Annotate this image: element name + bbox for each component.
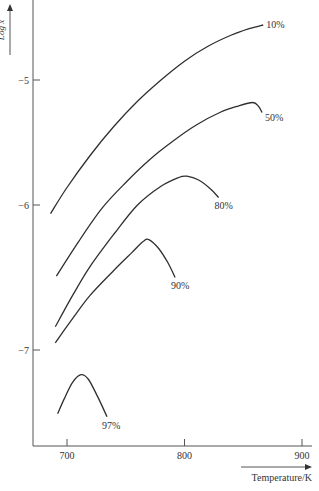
y-tick-label: −6 xyxy=(18,200,29,211)
y-arrowhead-icon xyxy=(7,4,13,11)
y-axis-label-group: Log x xyxy=(0,4,13,55)
curve-label-80pct: 80% xyxy=(215,200,233,211)
curve-labels: 10%50%80%90%97% xyxy=(102,19,285,431)
chart-canvas: Log x Temperature/K 700800900−5−6−7 10%5… xyxy=(0,0,319,491)
x-tick-label: 700 xyxy=(60,450,75,461)
curve-80pct xyxy=(55,176,218,327)
y-tick-label: −5 xyxy=(18,75,29,86)
y-axis-label: Log x xyxy=(0,20,6,41)
x-arrowhead-icon xyxy=(305,464,312,470)
x-axis-label: Temperature/K xyxy=(252,472,313,483)
y-tick-label: −7 xyxy=(18,345,29,356)
curve-90pct xyxy=(55,239,175,343)
x-tick-label: 800 xyxy=(177,450,192,461)
curve-label-50pct: 50% xyxy=(265,112,283,123)
curve-97pct xyxy=(58,375,107,417)
x-tick-label: 900 xyxy=(295,450,310,461)
curve-label-90pct: 90% xyxy=(171,280,189,291)
curve-10pct xyxy=(51,25,264,214)
curve-label-10pct: 10% xyxy=(266,19,284,30)
curve-label-97pct: 97% xyxy=(102,420,120,431)
curves xyxy=(51,25,264,417)
x-axis-label-group: Temperature/K xyxy=(241,464,313,483)
